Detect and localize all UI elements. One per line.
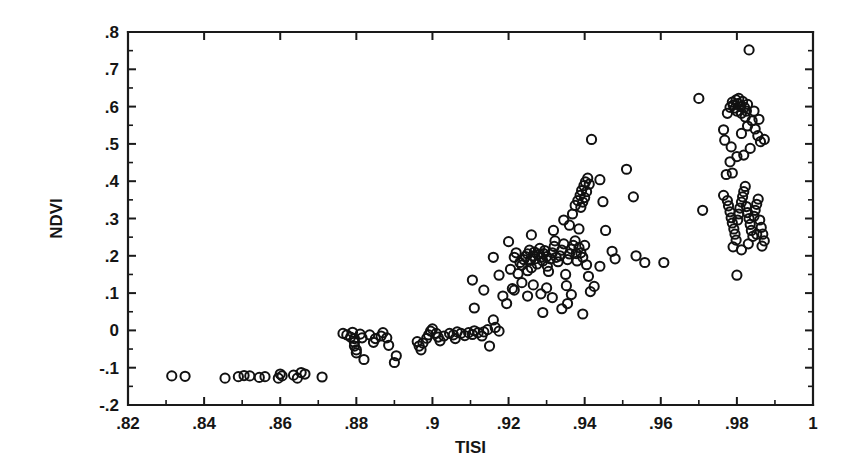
- data-point: [167, 371, 176, 380]
- data-point: [595, 175, 604, 184]
- y-tick-label: .8: [105, 23, 119, 42]
- data-point: [220, 374, 229, 383]
- data-point: [470, 303, 479, 312]
- data-point: [260, 372, 269, 381]
- data-point: [698, 206, 707, 215]
- data-point: [631, 251, 640, 260]
- axis-spines: [128, 32, 813, 405]
- data-point: [563, 255, 572, 264]
- y-tick-label: .1: [105, 284, 119, 303]
- y-tick-label: .6: [105, 98, 119, 117]
- data-point: [694, 94, 703, 103]
- data-point: [542, 283, 551, 292]
- data-point: [523, 291, 532, 300]
- data-point: [565, 221, 574, 230]
- x-tick-label: .9: [425, 414, 439, 433]
- data-point: [595, 262, 604, 271]
- data-point: [494, 271, 503, 280]
- data-point: [562, 281, 571, 290]
- scatter-plot-figure: -.2-.10.1.2.3.4.5.6.7.8.82.84.86.88.9.92…: [0, 0, 863, 470]
- data-point: [744, 239, 753, 248]
- data-point: [527, 230, 536, 239]
- chart-canvas: -.2-.10.1.2.3.4.5.6.7.8.82.84.86.88.9.92…: [0, 0, 863, 470]
- data-point: [359, 355, 368, 364]
- data-point: [598, 197, 607, 206]
- data-point: [744, 45, 753, 54]
- y-tick-label: .7: [105, 60, 119, 79]
- data-point: [732, 271, 741, 280]
- data-point: [725, 157, 734, 166]
- data-point: [180, 372, 189, 381]
- x-tick-label: .92: [497, 414, 521, 433]
- data-point: [659, 258, 668, 267]
- data-point: [727, 142, 736, 151]
- data-point: [549, 226, 558, 235]
- x-tick-label: .86: [268, 414, 292, 433]
- data-point: [548, 293, 557, 302]
- data-point: [719, 125, 728, 134]
- data-point: [485, 341, 494, 350]
- data-point: [563, 299, 572, 308]
- data-point: [538, 308, 547, 317]
- x-tick-label: .88: [345, 414, 369, 433]
- data-point: [504, 237, 513, 246]
- data-point: [587, 135, 596, 144]
- data-point: [601, 226, 610, 235]
- data-point: [582, 260, 591, 269]
- x-tick-label: .82: [116, 414, 140, 433]
- data-point: [559, 215, 568, 224]
- data-point: [728, 168, 737, 177]
- data-point: [561, 270, 570, 279]
- data-point: [578, 309, 587, 318]
- data-point: [468, 275, 477, 284]
- data-point: [517, 278, 526, 287]
- x-tick-label: 1: [808, 414, 817, 433]
- data-point: [245, 371, 254, 380]
- data-point: [640, 258, 649, 267]
- x-tick-label: .96: [649, 414, 673, 433]
- data-points-group: [167, 45, 769, 382]
- data-point: [574, 224, 583, 233]
- y-tick-label: .5: [105, 135, 119, 154]
- y-tick-label: -.1: [99, 359, 119, 378]
- y-tick-label: 0: [110, 321, 119, 340]
- y-tick-label: .4: [105, 172, 120, 191]
- data-point: [584, 272, 593, 281]
- data-point: [317, 372, 326, 381]
- data-point: [489, 253, 498, 262]
- data-point: [529, 280, 538, 289]
- data-point: [479, 286, 488, 295]
- data-point: [580, 241, 589, 250]
- data-point: [622, 165, 631, 174]
- data-point: [567, 290, 576, 299]
- y-axis-title: NDVI: [47, 198, 66, 239]
- data-point: [502, 299, 511, 308]
- x-tick-label: .94: [573, 414, 597, 433]
- data-point: [629, 192, 638, 201]
- x-tick-label: .84: [192, 414, 216, 433]
- x-tick-label: .98: [725, 414, 749, 433]
- y-tick-label: -.2: [99, 396, 119, 415]
- y-tick-label: .3: [105, 210, 119, 229]
- x-axis-title: TISI: [455, 438, 486, 457]
- data-point: [557, 304, 566, 313]
- y-tick-label: .2: [105, 247, 119, 266]
